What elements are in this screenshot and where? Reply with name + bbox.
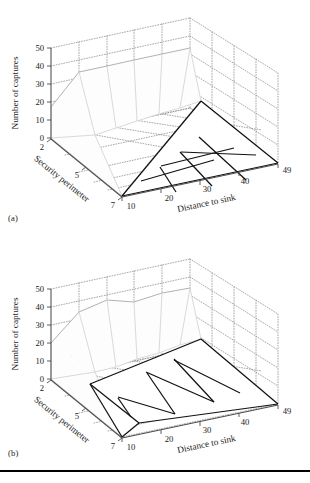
z-axis-a: 50 40 30 20 10 0 Number of captures	[10, 43, 51, 143]
x-axis-title: Distance to sink	[176, 192, 236, 214]
z-axis-title: Number of captures	[10, 56, 20, 129]
z-tick-20: 20	[35, 97, 44, 107]
z-tick-20: 20	[35, 338, 44, 348]
y-tick-5: 5	[75, 170, 79, 180]
z-tick-30: 30	[35, 79, 44, 89]
y-tick-2: 2	[40, 383, 44, 393]
footer-rule	[0, 470, 310, 472]
figure-panel-a: 50 40 30 20 10 0 Number of captures 2 5 …	[0, 0, 310, 241]
figure-panel-b: 50 40 30 20 10 0 Number of captures 2 5 …	[0, 241, 310, 482]
surface-plot-b: 50 40 30 20 10 0 Number of captures 2 5 …	[0, 241, 310, 456]
x-tick-10: 10	[127, 442, 136, 452]
x-axis-title: Distance to sink	[176, 433, 236, 455]
z-axis-title: Number of captures	[10, 297, 20, 370]
y-tick-5: 5	[75, 411, 79, 421]
panel-caption-b: (b)	[8, 448, 19, 458]
surface-plot-a: 50 40 30 20 10 0 Number of captures 2 5 …	[0, 0, 310, 215]
x-tick-49: 49	[283, 165, 292, 175]
z-tick-40: 40	[35, 61, 44, 71]
x-tick-40: 40	[241, 176, 250, 186]
x-tick-10: 10	[127, 201, 136, 211]
z-tick-50: 50	[35, 43, 44, 53]
panel-caption-a: (a)	[8, 213, 18, 223]
z-tick-40: 40	[35, 302, 44, 312]
z-tick-50: 50	[35, 284, 44, 294]
z-tick-30: 30	[35, 320, 44, 330]
y-tick-2: 2	[40, 142, 44, 152]
x-tick-20: 20	[165, 434, 174, 444]
x-tick-20: 20	[165, 193, 174, 203]
x-tick-30: 30	[203, 184, 212, 194]
x-tick-40: 40	[241, 417, 250, 427]
x-tick-30: 30	[203, 425, 212, 435]
y-tick-7: 7	[111, 441, 116, 451]
z-tick-10: 10	[35, 115, 44, 125]
z-axis-b: 50 40 30 20 10 0 Number of captures	[10, 284, 51, 384]
x-tick-49: 49	[283, 406, 292, 416]
y-tick-7: 7	[111, 200, 116, 210]
z-tick-10: 10	[35, 356, 44, 366]
